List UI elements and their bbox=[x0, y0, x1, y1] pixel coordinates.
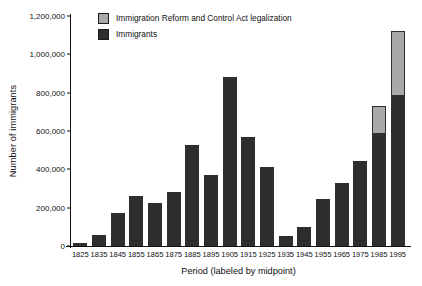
y-axis-tick: 600,000 bbox=[36, 127, 71, 136]
bar-1985[interactable] bbox=[372, 106, 386, 246]
bar-1835[interactable] bbox=[92, 235, 106, 247]
bar-1965[interactable] bbox=[335, 183, 349, 246]
bar-segment-immigrants-1895[interactable] bbox=[204, 175, 218, 246]
bar-1855[interactable] bbox=[129, 196, 143, 246]
y-axis-tick-mark bbox=[67, 92, 71, 93]
bar-segment-irca-1985[interactable] bbox=[372, 106, 386, 133]
bar-segment-irca-1995[interactable] bbox=[391, 31, 405, 94]
y-axis-tick: 200,000 bbox=[36, 203, 71, 212]
x-axis-tick-label-1885: 1885 bbox=[184, 250, 201, 259]
bar-1845[interactable] bbox=[111, 213, 125, 246]
x-axis-tick-label-1915: 1915 bbox=[240, 250, 257, 259]
bar-1905[interactable] bbox=[223, 77, 237, 246]
x-axis-tick-label-1825: 1825 bbox=[72, 250, 89, 259]
x-axis-tick-label-1965: 1965 bbox=[333, 250, 350, 259]
y-axis-tick-mark bbox=[67, 246, 71, 247]
bar-segment-immigrants-1875[interactable] bbox=[167, 192, 181, 246]
x-axis-line bbox=[66, 246, 411, 247]
bar-segment-immigrants-1955[interactable] bbox=[316, 199, 330, 246]
x-axis-tick-label-1985: 1985 bbox=[371, 250, 388, 259]
x-axis-tick-label-1945: 1945 bbox=[296, 250, 313, 259]
x-axis-tick-label-1925: 1925 bbox=[259, 250, 276, 259]
bar-segment-immigrants-1845[interactable] bbox=[111, 213, 125, 246]
y-axis-tick-mark bbox=[67, 16, 71, 17]
bar-1935[interactable] bbox=[279, 236, 293, 246]
bar-segment-immigrants-1965[interactable] bbox=[335, 183, 349, 246]
y-axis-tick-mark bbox=[67, 131, 71, 132]
bar-1885[interactable] bbox=[185, 145, 199, 246]
y-axis-title-holder: Number of immigrants bbox=[10, 16, 24, 246]
bar-segment-immigrants-1905[interactable] bbox=[223, 77, 237, 246]
bar-1975[interactable] bbox=[353, 161, 367, 246]
bar-segment-immigrants-1865[interactable] bbox=[148, 203, 162, 246]
bar-segment-immigrants-1835[interactable] bbox=[92, 235, 106, 247]
bar-1915[interactable] bbox=[241, 137, 255, 246]
x-axis-tick-label-1905: 1905 bbox=[221, 250, 238, 259]
x-axis-tick-label-1845: 1845 bbox=[109, 250, 126, 259]
bar-segment-immigrants-1925[interactable] bbox=[260, 167, 274, 246]
x-axis-tick-label-1895: 1895 bbox=[203, 250, 220, 259]
bar-1865[interactable] bbox=[148, 203, 162, 246]
bar-1895[interactable] bbox=[204, 175, 218, 246]
immigration-bar-chart: Immigration Reform and Control Act legal… bbox=[0, 0, 422, 286]
bar-segment-immigrants-1995[interactable] bbox=[391, 95, 405, 246]
y-axis-tick: 1,200,000 bbox=[29, 12, 71, 21]
y-axis-tick: 800,000 bbox=[36, 88, 71, 97]
x-axis-tick-label-1865: 1865 bbox=[147, 250, 164, 259]
y-axis-tick: 400,000 bbox=[36, 165, 71, 174]
bar-1875[interactable] bbox=[167, 192, 181, 246]
x-axis-tick-label-1935: 1935 bbox=[277, 250, 294, 259]
bar-1995[interactable] bbox=[391, 31, 405, 246]
bar-segment-immigrants-1825[interactable] bbox=[73, 243, 87, 246]
bar-segment-immigrants-1985[interactable] bbox=[372, 133, 386, 246]
bar-segment-immigrants-1975[interactable] bbox=[353, 161, 367, 246]
y-axis-tick: 0 bbox=[61, 242, 71, 251]
y-axis-tick-mark bbox=[67, 207, 71, 208]
bar-segment-immigrants-1855[interactable] bbox=[129, 196, 143, 246]
y-axis-tick: 1,000,000 bbox=[29, 50, 71, 59]
bar-1925[interactable] bbox=[260, 167, 274, 246]
y-axis-tick-label: 0 bbox=[61, 242, 65, 251]
y-axis-tick-label: 400,000 bbox=[36, 165, 65, 174]
x-axis-tick-label-1995: 1995 bbox=[389, 250, 406, 259]
plot-area: 0200,000400,000600,000800,0001,000,0001,… bbox=[71, 16, 407, 246]
bar-1945[interactable] bbox=[297, 227, 311, 246]
bar-1825[interactable] bbox=[73, 243, 87, 246]
x-axis-tick-label-1875: 1875 bbox=[165, 250, 182, 259]
bar-segment-immigrants-1915[interactable] bbox=[241, 137, 255, 246]
bar-segment-immigrants-1885[interactable] bbox=[185, 145, 199, 246]
y-axis-tick-label: 200,000 bbox=[36, 203, 65, 212]
y-axis-tick-label: 600,000 bbox=[36, 127, 65, 136]
y-axis-tick-label: 800,000 bbox=[36, 88, 65, 97]
y-axis-tick-mark bbox=[67, 169, 71, 170]
bar-segment-immigrants-1945[interactable] bbox=[297, 227, 311, 246]
x-axis-tick-label-1955: 1955 bbox=[315, 250, 332, 259]
x-axis-title: Period (labeled by midpoint) bbox=[66, 266, 411, 276]
x-axis-tick-label-1835: 1835 bbox=[91, 250, 108, 259]
x-axis-tick-label-1855: 1855 bbox=[128, 250, 145, 259]
y-axis-title: Number of immigrants bbox=[8, 16, 22, 246]
y-axis-tick-label: 1,000,000 bbox=[29, 50, 65, 59]
y-axis-tick-mark bbox=[67, 54, 71, 55]
x-axis-tick-label-1975: 1975 bbox=[352, 250, 369, 259]
bar-segment-immigrants-1935[interactable] bbox=[279, 236, 293, 246]
bar-1955[interactable] bbox=[316, 199, 330, 246]
y-axis-tick-label: 1,200,000 bbox=[29, 12, 65, 21]
